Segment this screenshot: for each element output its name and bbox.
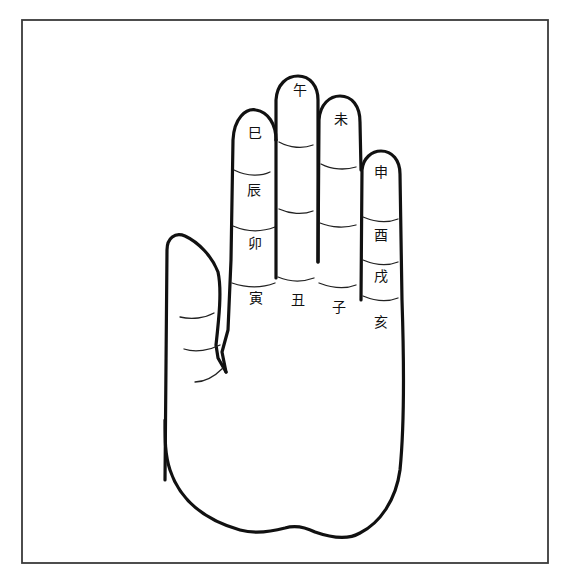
label-you: 酉	[374, 227, 388, 243]
thumb-crease-3	[195, 368, 223, 382]
label-wei: 未	[334, 111, 348, 127]
label-chen: 辰	[247, 182, 261, 198]
middle-crease-1	[279, 142, 313, 147]
index-crease-3	[232, 283, 275, 287]
little-finger-outline	[165, 151, 404, 537]
label-si: 巳	[248, 125, 262, 141]
ring-crease-3	[319, 283, 356, 287]
ring-crease-2	[320, 223, 356, 227]
label-chou: 丑	[291, 292, 305, 308]
label-hai: 亥	[374, 314, 388, 330]
label-zi: 子	[332, 299, 346, 315]
label-shen: 申	[374, 164, 388, 180]
thumb-crease-1	[180, 313, 214, 318]
diagram-frame	[22, 20, 548, 563]
little-crease-2	[363, 260, 398, 264]
middle-crease-3	[278, 277, 314, 281]
hand-illustration	[165, 76, 404, 537]
thumb-outline	[165, 235, 226, 480]
index-crease-1	[234, 170, 270, 175]
middle-crease-2	[279, 209, 313, 213]
label-wu: 午	[293, 82, 307, 98]
label-mao: 卯	[248, 235, 262, 251]
ring-crease-1	[321, 164, 356, 169]
label-yin: 寅	[249, 290, 263, 306]
little-crease-1	[363, 217, 398, 221]
hand-diagram-canvas: 巳 辰 卯 寅 午 丑 未 子 申 酉 戌 亥	[0, 0, 569, 586]
middle-finger-outline	[276, 76, 318, 262]
index-crease-2	[233, 226, 275, 231]
little-crease-3	[363, 296, 398, 300]
label-xu: 戌	[374, 268, 388, 284]
